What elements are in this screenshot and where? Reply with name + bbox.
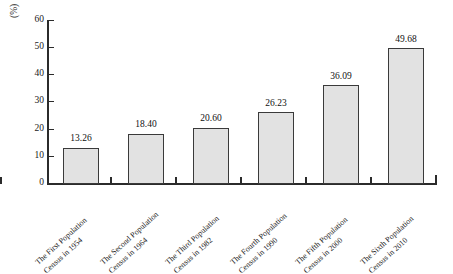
y-axis-line [47,20,49,184]
bar-census-5 [323,85,359,184]
x-category-label-5: The Fifth Population Census in 2000 [293,214,358,274]
bar-value-census-6: 49.68 [383,35,429,45]
x-tick-boundary-1 [110,177,112,184]
x-axis-end-tick [435,175,437,185]
y-tick-label-50: 50 [22,42,44,52]
bar-census-1 [63,148,99,184]
bar-census-6 [388,48,424,184]
y-tick-60 [49,20,54,21]
bar-census-3 [193,128,229,184]
x-category-label-6: The Sixth Population Census in 2010 [358,213,424,274]
y-tick-10 [49,156,54,157]
y-tick-label-60: 60 [22,15,44,25]
x-category-label-1: The First Population Census in 1954 [33,215,97,274]
x-category-label-2: The Second Population Census in 1964 [98,209,169,274]
bar-census-2 [128,134,164,184]
x-tick-boundary-5 [370,177,372,184]
x-category-label-3: The Third Population Census in 1982 [163,213,230,274]
y-axis-label: (%) [9,4,19,18]
bar-chart: (%) 60 50 40 30 20 10 0 13.26 18.40 20.6… [0,0,453,274]
x-tick-boundary-4 [305,177,307,184]
x-tick-boundary-2 [175,177,177,184]
x-category-label-4: The Fourth Population Census in 1990 [228,211,297,274]
bar-value-census-5: 36.09 [318,72,364,82]
x-axis-line [47,183,437,185]
y-tick-label-10: 10 [22,151,44,161]
y-tick-label-20: 20 [22,124,44,134]
bar-value-census-2: 18.40 [123,120,169,130]
bar-value-census-1: 13.26 [58,134,104,144]
y-tick-label-40: 40 [22,69,44,79]
bar-value-census-3: 20.60 [188,114,234,124]
y-tick-label-0: 0 [22,178,44,188]
bar-census-4 [258,112,294,184]
y-tick-label-30: 30 [22,96,44,106]
y-tick-40 [49,74,54,75]
y-tick-20 [49,129,54,130]
y-tick-0 [49,183,54,184]
bar-value-census-4: 26.23 [253,99,299,109]
y-tick-50 [49,47,54,48]
y-tick-30 [49,101,54,102]
x-tick-boundary-3 [240,177,242,184]
